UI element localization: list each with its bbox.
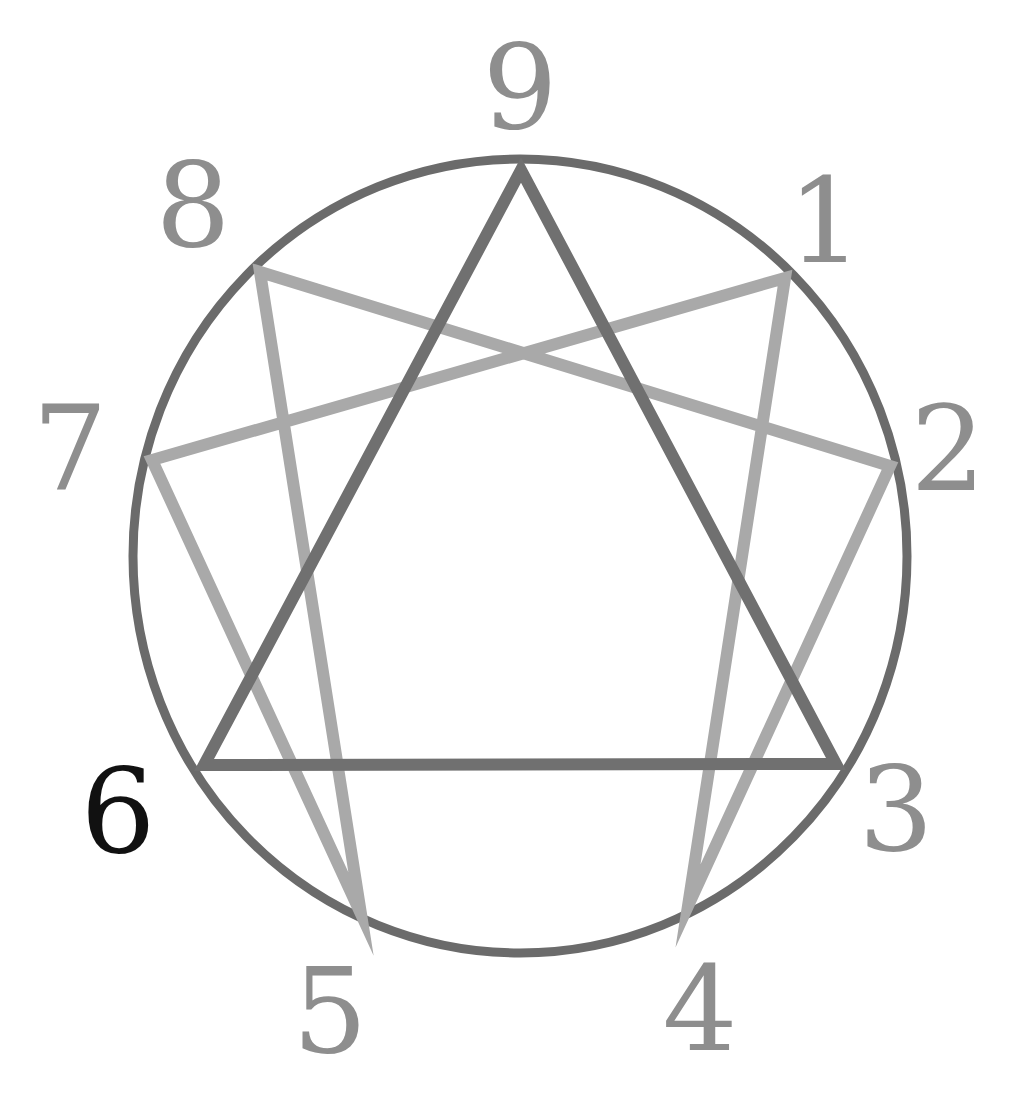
inner-triangle [204, 170, 836, 765]
point-label-2: 2 [910, 380, 985, 518]
point-label-9: 9 [482, 18, 557, 156]
point-label-4: 4 [662, 940, 737, 1078]
point-label-3: 3 [858, 740, 933, 878]
point-label-6: 6 [80, 742, 155, 880]
enneagram-diagram: 9 1 2 3 4 5 6 7 8 [0, 0, 1036, 1101]
point-label-1: 1 [787, 152, 862, 290]
point-label-5: 5 [292, 942, 367, 1080]
hexad-figure [152, 272, 890, 914]
point-label-7: 7 [32, 380, 107, 518]
point-label-8: 8 [155, 136, 230, 274]
